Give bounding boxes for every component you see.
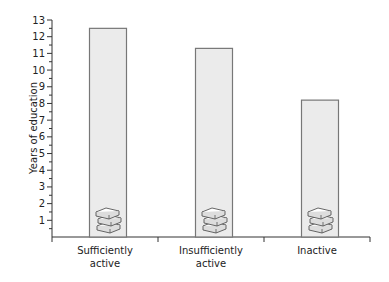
books-stack-icon <box>202 208 227 233</box>
x-category-label: active <box>196 258 226 269</box>
y-tick-label: 7 <box>39 115 45 126</box>
y-tick-label: 4 <box>39 165 45 176</box>
y-tick-label: 11 <box>32 48 45 59</box>
books-stack-icon <box>96 208 121 233</box>
bar <box>90 28 127 237</box>
x-category-label: Insufficiently <box>179 245 243 256</box>
y-tick-label: 1 <box>39 215 45 226</box>
y-tick-label: 12 <box>32 31 45 42</box>
y-tick-label: 3 <box>39 181 45 192</box>
y-tick-label: 10 <box>32 65 45 76</box>
y-tick-label: 6 <box>39 131 45 142</box>
y-tick-label: 8 <box>39 98 45 109</box>
x-category-label: Sufficiently <box>77 245 133 256</box>
y-tick-label: 5 <box>39 148 45 159</box>
x-axis: SufficientlyactiveInsufficientlyactiveIn… <box>52 237 370 269</box>
x-category-label: Inactive <box>297 245 337 256</box>
y-axis-title: Years of education <box>28 82 39 175</box>
x-category-label: active <box>90 258 120 269</box>
books-stack-icon <box>308 208 333 233</box>
y-tick-label: 13 <box>32 15 45 26</box>
y-tick-label: 9 <box>39 81 45 92</box>
bar-chart: 12345678910111213 SufficientlyactiveInsu… <box>0 0 389 282</box>
y-tick-label: 2 <box>39 198 45 209</box>
bars <box>90 28 339 237</box>
